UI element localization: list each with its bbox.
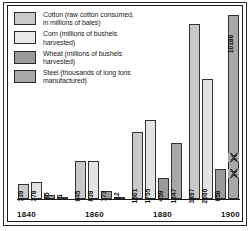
bar-wheat-1860: 173 <box>101 191 112 199</box>
x-axis-label-1860: 1860 <box>85 210 104 219</box>
bar-cotton-1900: 3897 <box>189 24 200 199</box>
bar-value-label: 1501 <box>131 189 138 204</box>
legend-label-cotton: Cotton (raw cotton consumed, in millions… <box>43 11 134 27</box>
legend-swatch-cotton <box>14 12 36 25</box>
x-axis-labels: 1840186018801900 <box>17 210 240 219</box>
bar-corn-1880: 1755 <box>145 120 156 199</box>
bar-value-label: 2666 <box>201 189 208 204</box>
bar-value-label: 1755 <box>144 189 151 204</box>
bar-value-label: 3897 <box>188 189 195 204</box>
bar-corn-1860: 839 <box>88 161 99 199</box>
bar-steel-1880: 1247 <box>171 143 182 199</box>
chart-figure: Cotton (raw cotton consumed, in millions… <box>0 0 250 231</box>
bar-group-1900: 3897266665810188 <box>188 6 240 199</box>
x-axis-label-1880: 1880 <box>153 210 172 219</box>
legend-swatch-steel <box>14 70 36 83</box>
legend-label-corn: Corn (millions of bushels harvested) <box>43 30 117 46</box>
legend-label-wheat: Wheat (millions of bushels harvested) <box>43 50 122 66</box>
legend-item-cotton: Cotton (raw cotton consumed, in millions… <box>14 11 189 27</box>
bar-value-label: 10188 <box>227 35 234 54</box>
bar-value-label: 1247 <box>170 189 177 204</box>
x-axis-label-1900: 1900 <box>221 210 240 219</box>
chart-legend: Cotton (raw cotton consumed, in millions… <box>14 11 189 89</box>
bar-value-label: 1 <box>56 194 63 198</box>
bar-wheat-1900: 658 <box>215 169 226 199</box>
bar-cotton-1880: 1501 <box>132 132 143 199</box>
bar-corn-1900: 2666 <box>202 79 213 199</box>
x-axis-label-1840: 1840 <box>17 210 36 219</box>
bar-cotton-1840: 339 <box>18 184 29 199</box>
legend-swatch-wheat <box>14 51 36 64</box>
legend-swatch-corn <box>14 31 36 44</box>
legend-label-steel: Steel (thousands of long tons manufactur… <box>43 69 131 85</box>
bar-cotton-1860: 845 <box>75 161 86 199</box>
bar-wheat-1880: 459 <box>158 178 169 199</box>
legend-item-wheat: Wheat (millions of bushels harvested) <box>14 50 189 66</box>
legend-item-corn: Corn (millions of bushels harvested) <box>14 30 189 46</box>
legend-item-steel: Steel (thousands of long tons manufactur… <box>14 69 189 85</box>
bar-steel-1900: 10188 <box>228 15 239 199</box>
bar-corn-1840: 378 <box>31 182 42 199</box>
x-axis-line <box>17 199 240 200</box>
